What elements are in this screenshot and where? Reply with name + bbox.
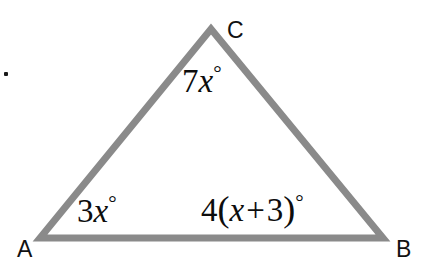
angle-b-coefficient: 4 bbox=[201, 192, 218, 228]
angle-a-degree-icon: ° bbox=[108, 191, 116, 215]
angle-b-degree-icon: ° bbox=[295, 190, 303, 214]
angle-b-close-paren: ) bbox=[283, 189, 295, 229]
angle-expression-a: 3x° bbox=[77, 193, 117, 228]
triangle-shape bbox=[0, 0, 435, 271]
angle-expression-c: 7x° bbox=[182, 63, 222, 98]
angle-b-open-paren: ( bbox=[218, 189, 230, 229]
angle-b-operator: + bbox=[244, 192, 267, 228]
vertex-label-c: C bbox=[227, 19, 244, 42]
vertex-label-b: B bbox=[396, 238, 411, 261]
angle-c-variable: x bbox=[199, 63, 214, 99]
angle-c-degree-icon: ° bbox=[213, 61, 221, 85]
angle-a-variable: x bbox=[94, 193, 109, 229]
angle-b-constant: 3 bbox=[267, 192, 284, 228]
vertex-label-a: A bbox=[17, 238, 32, 261]
angle-a-coefficient: 3 bbox=[77, 193, 94, 229]
angle-expression-b: 4(x+3)° bbox=[201, 191, 304, 227]
geometry-figure-canvas: C A B 7x° 3x° 4(x+3)° bbox=[0, 0, 435, 271]
stray-dot-mark bbox=[4, 72, 8, 76]
angle-b-variable: x bbox=[230, 192, 245, 228]
angle-c-coefficient: 7 bbox=[182, 63, 199, 99]
